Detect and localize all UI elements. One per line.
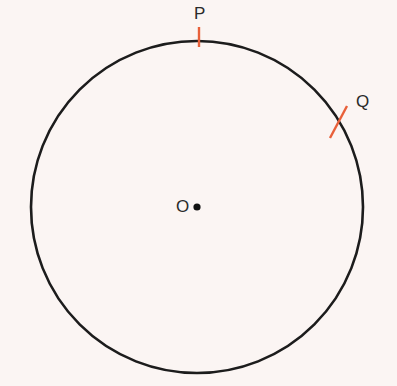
center-point-o-label: O	[176, 198, 189, 215]
diagram-canvas	[0, 0, 397, 386]
point-q-label: Q	[356, 93, 369, 110]
point-p-label: P	[194, 5, 205, 22]
center-point-o-dot	[193, 203, 200, 210]
